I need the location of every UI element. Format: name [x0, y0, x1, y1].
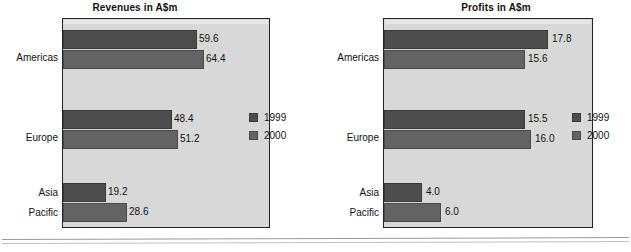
chart-panel-profits: Profits in A$m 17.8 15.6 15.5 16.0 4.0 6… [316, 0, 631, 252]
chart-title-revenues: Revenues in A$m [0, 2, 270, 13]
legend-profits: 1999 2000 [572, 110, 609, 146]
category-label-europe: Europe [347, 132, 379, 144]
value-profits-asiapacific-1999: 4.0 [426, 182, 440, 201]
bar-revenues-americas-2000 [63, 50, 204, 69]
bar-profits-asiapacific-1999 [384, 183, 422, 202]
category-label-pacific: Pacific [350, 207, 379, 219]
value-revenues-europe-2000: 51.2 [180, 129, 199, 148]
value-profits-europe-1999: 15.5 [528, 109, 547, 128]
legend-swatch-icon-2000 [249, 131, 258, 140]
legend-revenues: 1999 2000 [249, 110, 286, 146]
value-profits-americas-2000: 15.6 [528, 49, 547, 68]
bar-profits-americas-2000 [384, 50, 525, 69]
bar-revenues-europe-2000 [63, 130, 178, 149]
value-revenues-asiapacific-2000: 28.6 [129, 202, 148, 221]
legend-item-1999[interactable]: 1999 [249, 110, 286, 125]
bar-revenues-europe-1999 [63, 110, 172, 129]
bar-profits-europe-2000 [384, 130, 531, 149]
value-profits-americas-1999: 17.8 [552, 29, 571, 48]
legend-label-1999: 1999 [587, 112, 609, 123]
bar-revenues-asiapacific-1999 [63, 183, 106, 202]
plot-area-profits [383, 18, 593, 228]
bar-profits-europe-1999 [384, 110, 525, 129]
category-label-americas: Americas [16, 52, 58, 64]
chart-panel-revenues: Revenues in A$m 59.6 64.4 48.4 51.2 19.2… [0, 0, 315, 252]
value-revenues-asiapacific-1999: 19.2 [108, 182, 127, 201]
bar-profits-americas-1999 [384, 30, 548, 49]
legend-item-1999[interactable]: 1999 [572, 110, 609, 125]
legend-swatch-icon-1999 [572, 113, 581, 122]
plot-area-revenues [62, 18, 270, 228]
value-revenues-americas-2000: 64.4 [206, 49, 225, 68]
value-revenues-americas-1999: 59.6 [199, 29, 218, 48]
value-profits-europe-2000: 16.0 [535, 129, 554, 148]
category-label-pacific: Pacific [29, 207, 58, 219]
bar-revenues-asiapacific-2000 [63, 203, 127, 222]
legend-label-1999: 1999 [264, 112, 286, 123]
bar-profits-asiapacific-2000 [384, 203, 441, 222]
legend-item-2000[interactable]: 2000 [572, 128, 609, 143]
category-label-americas: Americas [337, 52, 379, 64]
value-revenues-europe-1999: 48.4 [174, 109, 193, 128]
category-label-asia: Asia [39, 187, 58, 199]
legend-swatch-icon-1999 [249, 113, 258, 122]
chart-title-profits: Profits in A$m [376, 2, 616, 13]
bar-revenues-americas-1999 [63, 30, 197, 49]
category-label-europe: Europe [26, 132, 58, 144]
legend-swatch-icon-2000 [572, 131, 581, 140]
legend-label-2000: 2000 [587, 130, 609, 141]
value-profits-asiapacific-2000: 6.0 [445, 202, 459, 221]
legend-item-2000[interactable]: 2000 [249, 128, 286, 143]
category-label-asia: Asia [360, 187, 379, 199]
legend-label-2000: 2000 [264, 130, 286, 141]
